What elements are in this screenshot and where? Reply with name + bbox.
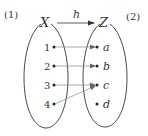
element-d: d — [103, 98, 110, 111]
element-4: 4 — [44, 99, 50, 110]
dot-b — [96, 65, 99, 68]
element-1: 1 — [44, 42, 50, 53]
mapping-arrows — [55, 47, 95, 104]
domain-elements: 1 2 3 4 — [44, 42, 56, 110]
dot-a — [96, 46, 99, 49]
dot-d — [96, 103, 99, 106]
set-x-ellipse — [24, 24, 68, 128]
mapping-diagram: (1) (2) X Z h 1 2 3 4 a b c — [0, 0, 148, 136]
function-label: h — [73, 8, 80, 21]
part-label-1: (1) — [4, 9, 18, 20]
element-c: c — [103, 79, 109, 92]
part-label-2: (2) — [126, 11, 140, 22]
codomain-elements: a b c d — [96, 41, 111, 111]
dot-c — [96, 84, 99, 87]
element-3: 3 — [44, 80, 50, 91]
element-2: 2 — [44, 61, 50, 72]
element-a: a — [103, 41, 110, 54]
set-x-label: X — [39, 15, 50, 30]
set-z-ellipse — [83, 24, 127, 127]
arrow-4-to-c — [55, 86, 95, 104]
element-b: b — [103, 60, 110, 73]
set-z-label: Z — [98, 15, 109, 30]
